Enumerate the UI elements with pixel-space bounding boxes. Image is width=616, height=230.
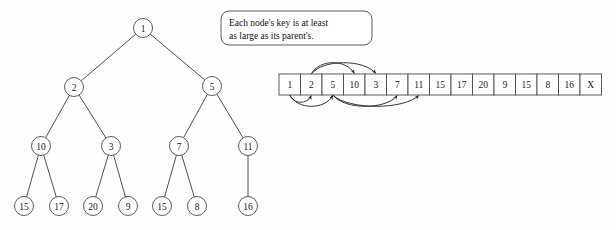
array-cell: 15 xyxy=(516,74,538,95)
tree-nodes: 125103711151720915816 xyxy=(15,19,258,216)
tree-node: 1 xyxy=(134,19,153,38)
array-cell-label: 16 xyxy=(565,80,575,90)
array-cell: 16 xyxy=(559,74,581,95)
tree-edge xyxy=(114,155,126,197)
array-arc-below xyxy=(290,95,333,106)
array-cell: 9 xyxy=(494,74,516,95)
tree-edge xyxy=(46,95,70,137)
tree-node-label: 10 xyxy=(36,142,46,152)
tree-node: 9 xyxy=(119,197,138,216)
array-cell-label: 1 xyxy=(287,80,292,90)
tree-edge xyxy=(217,94,243,138)
array-cell: 3 xyxy=(365,74,387,95)
tree-node-label: 11 xyxy=(243,142,252,152)
array-cell-label: X xyxy=(587,80,594,90)
array-cell: 7 xyxy=(387,74,409,95)
array-cell-label: 9 xyxy=(502,80,507,90)
tree-node: 7 xyxy=(170,137,189,156)
tree-node: 15 xyxy=(15,197,34,216)
tree-edge xyxy=(182,155,195,197)
tree-node: 17 xyxy=(50,197,69,216)
tree-node: 8 xyxy=(188,197,207,216)
tree-node-label: 9 xyxy=(126,202,131,212)
figure-canvas: 125103711151720915816 125103711151720915… xyxy=(0,0,616,230)
tree-edge xyxy=(150,34,204,80)
tree-edge xyxy=(44,155,57,197)
array-cell: 2 xyxy=(301,74,323,95)
tree-node-label: 16 xyxy=(243,202,253,212)
tree-node-label: 5 xyxy=(210,82,215,92)
callout-bubble: Each node's key is at least as large as … xyxy=(221,11,372,45)
tree-node: 16 xyxy=(239,197,258,216)
array-arc-below xyxy=(333,95,419,106)
array-cell: X xyxy=(580,74,602,95)
tree-node-label: 1 xyxy=(141,24,146,34)
tree-node: 15 xyxy=(153,197,172,216)
tree-node: 2 xyxy=(65,78,84,97)
tree-edge xyxy=(96,155,109,197)
tree-edge xyxy=(79,95,106,138)
array-cell: 10 xyxy=(344,74,366,95)
tree-edge xyxy=(165,155,177,197)
array-arc-below xyxy=(290,95,312,102)
tree-node: 10 xyxy=(32,137,51,156)
callout-line-2: as large as its parent's. xyxy=(229,31,314,41)
tree-edge xyxy=(184,94,208,137)
array-cell-label: 10 xyxy=(350,80,360,90)
array-cell: 15 xyxy=(430,74,452,95)
tree-node-label: 15 xyxy=(19,202,29,212)
array-cell: 11 xyxy=(408,74,430,95)
array-cell-label: 11 xyxy=(414,80,423,90)
tree-node: 11 xyxy=(239,137,258,156)
tree-node-label: 20 xyxy=(88,202,98,212)
tree-node-label: 7 xyxy=(177,142,182,152)
array-representation: 125103711151720915816X xyxy=(279,74,602,95)
array-cell: 5 xyxy=(322,74,344,95)
array-cell-label: 15 xyxy=(522,80,532,90)
tree-edges xyxy=(27,34,248,197)
heap-figure: 125103711151720915816 125103711151720915… xyxy=(0,0,616,230)
tree-node-label: 2 xyxy=(72,83,77,93)
array-cell: 17 xyxy=(451,74,473,95)
tree-node: 20 xyxy=(84,197,103,216)
array-cell-label: 3 xyxy=(373,80,378,90)
array-cell: 20 xyxy=(473,74,495,95)
array-cell: 8 xyxy=(537,74,559,95)
tree-node-label: 15 xyxy=(157,202,167,212)
array-cell-label: 8 xyxy=(545,80,550,90)
array-cell-label: 5 xyxy=(330,80,335,90)
tree-node-label: 8 xyxy=(195,202,200,212)
array-cell-label: 17 xyxy=(457,80,467,90)
array-cell-label: 20 xyxy=(479,80,489,90)
array-cell-label: 2 xyxy=(309,80,314,90)
callout-line-1: Each node's key is at least xyxy=(229,18,328,28)
tree-node: 5 xyxy=(203,77,222,96)
array-cell-label: 7 xyxy=(395,80,400,90)
tree-node-label: 3 xyxy=(109,142,114,152)
array-cell-label: 15 xyxy=(436,80,446,90)
tree-node: 3 xyxy=(102,137,121,156)
array-cell: 1 xyxy=(279,74,301,95)
tree-edge xyxy=(81,34,136,81)
tree-node-label: 17 xyxy=(54,202,64,212)
tree-edge xyxy=(27,155,39,197)
